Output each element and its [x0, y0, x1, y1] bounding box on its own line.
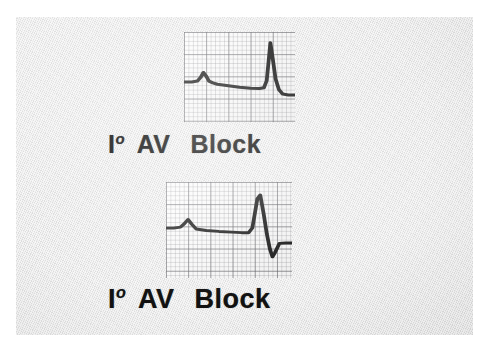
caption-bottom-trailing: Block — [194, 284, 270, 314]
caption-bottom-middle: AV — [138, 284, 175, 314]
ecg-rhythm-strip-top — [184, 32, 295, 122]
ecg-waveform-trace-top — [184, 32, 295, 122]
caption-bottom-roman: I — [108, 284, 116, 314]
ecg-figure: IoAVBlock IoAVBlock — [0, 0, 489, 352]
caption-top-degree: o — [115, 130, 124, 147]
ecg-waveform-trace-bottom — [166, 182, 292, 278]
caption-bottom: IoAVBlock — [108, 283, 270, 315]
caption-top-middle: AV — [137, 130, 171, 158]
ecg-rhythm-strip-bottom — [166, 182, 292, 278]
caption-top: IoAVBlock — [108, 130, 261, 159]
caption-bottom-degree: o — [116, 283, 126, 301]
caption-top-trailing: Block — [191, 130, 262, 158]
photograph-area: IoAVBlock IoAVBlock — [16, 17, 473, 335]
